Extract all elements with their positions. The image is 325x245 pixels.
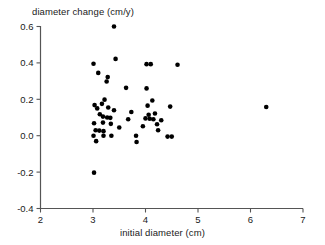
y-tick-group: -0.4-0.20.00.20.40.6	[17, 21, 40, 214]
data-point	[153, 111, 158, 116]
data-points-group	[91, 24, 268, 175]
data-point	[150, 98, 155, 103]
data-point	[175, 62, 180, 67]
scatter-plot-figure: diameter change (cm/y) -0.4-0.20.00.20.4…	[0, 0, 325, 245]
data-point	[155, 122, 160, 127]
data-point	[92, 170, 97, 175]
data-point	[129, 110, 134, 115]
data-point	[126, 117, 131, 122]
y-tick-label: 0.6	[20, 21, 33, 32]
data-point	[165, 134, 170, 139]
data-point	[169, 134, 174, 139]
data-point	[143, 116, 148, 121]
data-point	[146, 112, 151, 117]
data-point	[97, 128, 102, 133]
x-tick-label: 6	[248, 214, 253, 225]
y-tick-label: -0.2	[17, 167, 33, 178]
x-tick-label: 3	[90, 214, 95, 225]
data-point	[134, 133, 139, 138]
data-point	[156, 128, 161, 133]
data-point	[112, 108, 117, 113]
data-point	[104, 79, 109, 84]
data-point	[102, 97, 107, 102]
data-point	[151, 117, 156, 122]
plot-canvas: -0.4-0.20.00.20.40.6 234567	[0, 0, 325, 245]
data-point	[95, 106, 100, 111]
data-point	[144, 86, 149, 91]
data-point	[148, 62, 153, 67]
x-tick-label: 7	[300, 214, 305, 225]
data-point	[109, 122, 114, 127]
data-point	[134, 140, 139, 145]
x-tick-group: 234567	[38, 209, 306, 225]
data-point	[112, 24, 117, 29]
data-point	[124, 86, 129, 91]
data-point	[101, 129, 106, 134]
axes-group	[40, 26, 303, 209]
data-point	[108, 116, 113, 121]
x-axis-title: initial diameter (cm)	[0, 227, 325, 238]
y-tick-label: 0.0	[20, 130, 33, 141]
data-point	[100, 102, 105, 107]
y-tick-label: 0.4	[20, 57, 33, 68]
data-point	[101, 120, 106, 125]
data-point	[145, 103, 150, 108]
data-point	[168, 104, 173, 109]
data-point	[94, 139, 99, 144]
data-point	[91, 133, 96, 138]
data-point	[106, 105, 111, 110]
data-point	[141, 124, 146, 129]
x-tick-label: 4	[143, 214, 148, 225]
data-point	[117, 125, 122, 130]
x-tick-label: 2	[38, 214, 43, 225]
data-point	[105, 75, 110, 80]
data-point	[96, 71, 101, 76]
data-point	[92, 121, 97, 126]
data-point	[159, 118, 164, 123]
data-point	[101, 133, 106, 138]
y-tick-label: 0.2	[20, 94, 33, 105]
data-point	[98, 112, 103, 117]
x-tick-label: 5	[195, 214, 200, 225]
data-point	[264, 105, 269, 110]
data-point	[144, 62, 149, 67]
data-point	[109, 133, 114, 138]
data-point	[91, 62, 96, 67]
data-point	[113, 57, 118, 62]
y-tick-label: -0.4	[17, 203, 33, 214]
